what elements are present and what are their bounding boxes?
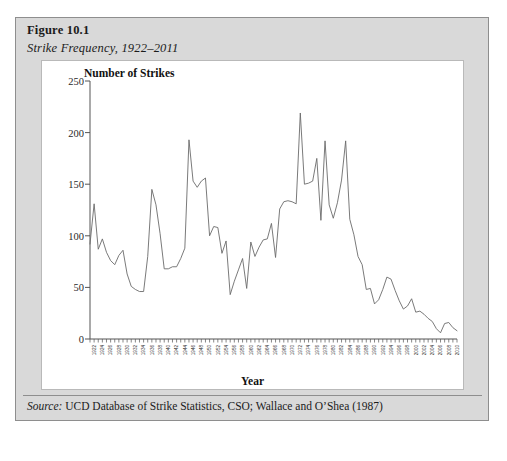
x-axis-title: Year [42,375,463,387]
x-tick-label: 1962 [257,345,262,355]
x-tick-label: 1952 [216,345,221,355]
figure-number-label: Figure 10.1 [27,23,89,38]
x-tick-label: 1958 [240,345,245,355]
x-tick-label: 1980 [331,345,336,355]
x-tick-label: 1974 [306,345,311,355]
x-tick-label: 1992 [381,345,386,355]
x-tick-label: 1946 [191,345,196,355]
x-tick-label: 1982 [339,345,344,355]
x-tick-label: 1978 [323,345,328,355]
x-tick-label: 1926 [108,345,113,355]
x-tick-label: 1948 [199,345,204,355]
x-tick-label: 1938 [158,345,163,355]
x-tick-label: 1988 [364,345,369,355]
x-tick-label: 1998 [405,345,410,355]
x-tick-label: 1966 [273,345,278,355]
x-tick-label: 1994 [389,345,394,355]
source-prefix: Source: [27,400,62,412]
x-tick-label: 1924 [100,345,105,355]
x-tick-label: 1934 [141,345,146,355]
source-body: UCD Database of Strike Statistics, CSO; … [62,400,382,412]
x-tick-label: 1960 [249,345,254,355]
x-tick-label: 1950 [207,345,212,355]
x-tick-label: 1932 [133,345,138,355]
x-tick-label: 1972 [298,345,303,355]
x-tick-label: 1970 [290,345,295,355]
x-tick-label: 2000 [414,345,419,355]
x-tick-label: 1956 [232,345,237,355]
x-tick-label: 1976 [315,345,320,355]
source-note: Source: UCD Database of Strike Statistic… [27,400,383,412]
x-tick-label: 2004 [430,345,435,355]
x-tick-label: 1954 [224,345,229,355]
x-tick-label: 1940 [166,345,171,355]
x-tick-label: 1936 [150,345,155,355]
x-tick-label: 1996 [397,345,402,355]
x-tick-label: 1986 [356,345,361,355]
line-chart-svg [42,61,465,391]
chart-panel: Number of Strikes 050100150200250 192219… [41,60,464,390]
x-tick-label: 1990 [372,345,377,355]
x-tick-label: 2010 [455,345,460,355]
x-tick-label: 1984 [348,345,353,355]
x-tick-label: 2002 [422,345,427,355]
x-tick-label: 2006 [438,345,443,355]
x-tick-label: 2008 [447,345,452,355]
figure-subtitle: Strike Frequency, 1922–2011 [27,41,179,56]
x-tick-label: 1944 [183,345,188,355]
x-tick-label: 1968 [282,345,287,355]
x-tick-label: 1922 [92,345,97,355]
figure-container: Figure 10.1 Strike Frequency, 1922–2011 … [15,17,489,421]
x-tick-label: 1942 [174,345,179,355]
x-tick-label: 1964 [265,345,270,355]
source-divider [23,395,482,396]
x-tick-label: 1930 [125,345,130,355]
x-tick-label: 1928 [117,345,122,355]
